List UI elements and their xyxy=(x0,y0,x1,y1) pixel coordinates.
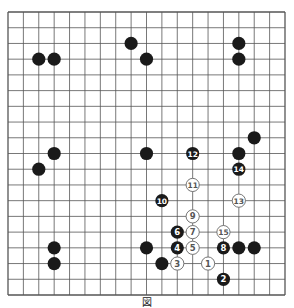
black-stone-move-8: 8 xyxy=(217,241,230,254)
black-stone xyxy=(48,147,61,160)
move-number: 4 xyxy=(174,243,180,253)
black-stone xyxy=(232,147,245,160)
move-number: 6 xyxy=(174,227,180,237)
black-stone-move-12: 12 xyxy=(186,147,199,160)
move-number: 15 xyxy=(218,228,228,237)
black-stone xyxy=(32,163,45,176)
move-number: 12 xyxy=(187,150,197,159)
move-number: 14 xyxy=(234,165,244,174)
white-stone-move-15: 15 xyxy=(217,226,230,239)
move-number: 3 xyxy=(174,259,180,269)
black-stone-move-2: 2 xyxy=(217,273,230,286)
black-stone xyxy=(140,53,153,66)
white-stone-move-13: 13 xyxy=(232,194,245,207)
black-stone xyxy=(32,53,45,66)
move-number: 9 xyxy=(190,211,196,221)
white-stone-move-11: 11 xyxy=(186,178,199,191)
white-stone-move-1: 1 xyxy=(201,257,214,270)
go-board: 123456789101112131415 xyxy=(0,0,294,296)
black-stone-move-4: 4 xyxy=(171,241,184,254)
white-stone-move-5: 5 xyxy=(186,241,199,254)
move-number: 2 xyxy=(220,274,226,284)
black-stone xyxy=(48,241,61,254)
black-stone xyxy=(48,53,61,66)
black-stone xyxy=(140,147,153,160)
move-number: 10 xyxy=(157,197,167,206)
black-stone xyxy=(140,241,153,254)
white-stone-move-7: 7 xyxy=(186,226,199,239)
move-number: 7 xyxy=(190,227,196,237)
move-number: 13 xyxy=(234,197,244,206)
black-stone xyxy=(155,257,168,270)
black-stone xyxy=(248,131,261,144)
diagram-caption: 図 xyxy=(0,297,294,308)
black-stone xyxy=(232,241,245,254)
move-number: 11 xyxy=(187,181,197,190)
move-number: 5 xyxy=(190,243,196,253)
move-number: 8 xyxy=(220,243,226,253)
black-stone xyxy=(48,257,61,270)
move-number: 1 xyxy=(205,259,211,269)
black-stone xyxy=(232,37,245,50)
black-stone-move-14: 14 xyxy=(232,163,245,176)
white-stone-move-9: 9 xyxy=(186,210,199,223)
black-stone-move-6: 6 xyxy=(171,226,184,239)
black-stone-move-10: 10 xyxy=(155,194,168,207)
white-stone-move-3: 3 xyxy=(171,257,184,270)
black-stone xyxy=(232,53,245,66)
black-stone xyxy=(125,37,138,50)
black-stone xyxy=(248,241,261,254)
